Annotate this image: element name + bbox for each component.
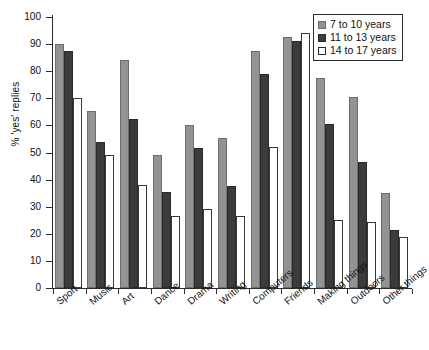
x-tick — [53, 289, 54, 294]
y-tick-label: 70 — [11, 93, 41, 103]
bar — [218, 138, 227, 288]
y-tick — [46, 261, 52, 262]
y-tick — [46, 17, 52, 18]
bar — [194, 148, 203, 288]
x-tick — [379, 289, 380, 294]
legend-swatch-icon — [318, 34, 326, 42]
y-tick — [46, 125, 52, 126]
x-tick-label: Art — [120, 291, 136, 307]
bar — [269, 147, 278, 288]
y-tick-label: 60 — [11, 120, 41, 130]
bar-group — [120, 17, 147, 288]
legend-label: 11 to 13 years — [330, 32, 396, 43]
y-tick-label: 40 — [11, 175, 41, 185]
legend-swatch-icon — [318, 21, 326, 29]
bar — [73, 98, 82, 288]
x-tick — [412, 289, 413, 294]
legend-item: 7 to 10 years — [318, 18, 397, 31]
y-tick-label: 80 — [11, 66, 41, 76]
bar — [203, 209, 212, 288]
x-tick — [347, 289, 348, 294]
bar — [162, 192, 171, 288]
bar — [316, 78, 325, 288]
x-tick — [281, 289, 282, 294]
bar — [138, 185, 147, 288]
bar-group — [218, 17, 245, 288]
bar — [129, 119, 138, 288]
x-tick — [249, 289, 250, 294]
bar — [381, 193, 390, 288]
y-tick — [46, 288, 52, 289]
bar — [283, 37, 292, 288]
y-tick — [46, 44, 52, 45]
bar — [301, 33, 310, 288]
x-tick — [118, 289, 119, 294]
legend-item: 14 to 17 years — [318, 44, 397, 57]
bar — [153, 155, 162, 288]
y-tick — [46, 207, 52, 208]
y-tick-label: 0 — [11, 283, 41, 293]
bar — [105, 155, 114, 288]
bar — [390, 230, 399, 288]
bar — [96, 142, 105, 288]
legend-label: 7 to 10 years — [330, 19, 391, 30]
bar — [87, 111, 96, 289]
x-tick — [151, 289, 152, 294]
y-tick-label: 10 — [11, 256, 41, 266]
y-tick — [46, 153, 52, 154]
legend-swatch-icon — [318, 47, 326, 55]
bar — [64, 51, 73, 288]
bar — [251, 51, 260, 288]
legend: 7 to 10 years11 to 13 years14 to 17 year… — [313, 14, 403, 61]
legend-label: 14 to 17 years — [330, 45, 397, 56]
y-tick-label: 20 — [11, 229, 41, 239]
bar — [120, 60, 129, 288]
bar — [325, 124, 334, 288]
bar-group — [251, 17, 278, 288]
bar — [55, 44, 64, 288]
x-tick — [184, 289, 185, 294]
bar — [185, 125, 194, 288]
x-tick — [86, 289, 87, 294]
bar — [260, 74, 269, 288]
y-tick-label: 50 — [11, 148, 41, 158]
bar-group — [55, 17, 82, 288]
y-tick — [46, 234, 52, 235]
bar — [349, 97, 358, 288]
y-tick — [46, 180, 52, 181]
y-tick — [46, 71, 52, 72]
bar — [292, 41, 301, 288]
y-tick-label: 30 — [11, 202, 41, 212]
bar-group — [87, 17, 114, 288]
bar-group — [153, 17, 180, 288]
bar-group — [185, 17, 212, 288]
legend-item: 11 to 13 years — [318, 31, 397, 44]
x-tick — [314, 289, 315, 294]
y-tick — [46, 98, 52, 99]
bar — [171, 216, 180, 288]
y-tick-label: 100 — [11, 12, 41, 22]
y-tick-label: 90 — [11, 39, 41, 49]
x-tick — [216, 289, 217, 294]
bar — [227, 186, 236, 288]
bar-group — [283, 17, 310, 288]
